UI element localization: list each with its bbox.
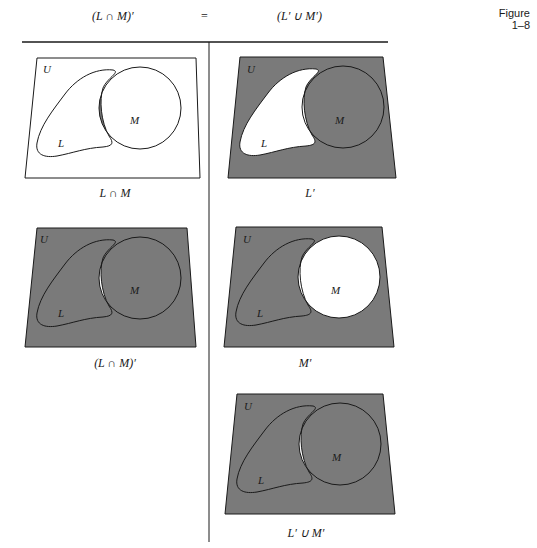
panel-l-intersect-m-complement	[25, 228, 196, 347]
set-l-label: L	[58, 307, 64, 319]
set-m-label: M	[130, 284, 139, 296]
universe-label: U	[244, 400, 252, 412]
universe-label: U	[43, 63, 51, 75]
panel-l-complement	[228, 57, 396, 178]
panel-l-complement-union-m-complement	[225, 394, 395, 514]
set-l-label: L	[258, 474, 264, 486]
caption-l-intersect-m-complement: (L ∩ M)′	[55, 356, 175, 371]
set-m-label: M	[335, 114, 344, 126]
venn-diagrams	[0, 0, 537, 548]
figure-page: (L ∩ M)′ = (L′ ∪ M′) Figure 1–8	[0, 0, 537, 548]
universe-label: U	[247, 63, 255, 75]
panel-l-intersect-m	[25, 58, 200, 178]
caption-l-intersect-m: L ∩ M	[55, 186, 175, 201]
universe-label: U	[40, 233, 48, 245]
panel-m-complement	[224, 227, 394, 347]
set-m-label: M	[331, 284, 340, 296]
universe-label: U	[243, 233, 251, 245]
set-m-label: M	[332, 451, 341, 463]
caption-l-complement: L′	[250, 186, 370, 201]
caption-m-complement: M′	[245, 356, 365, 371]
caption-l-complement-union-m-complement: L′ ∪ M′	[246, 526, 366, 541]
set-l-label: L	[58, 137, 64, 149]
set-l-label: L	[257, 307, 263, 319]
set-m-label: M	[130, 114, 139, 126]
set-l-label: L	[261, 137, 267, 149]
